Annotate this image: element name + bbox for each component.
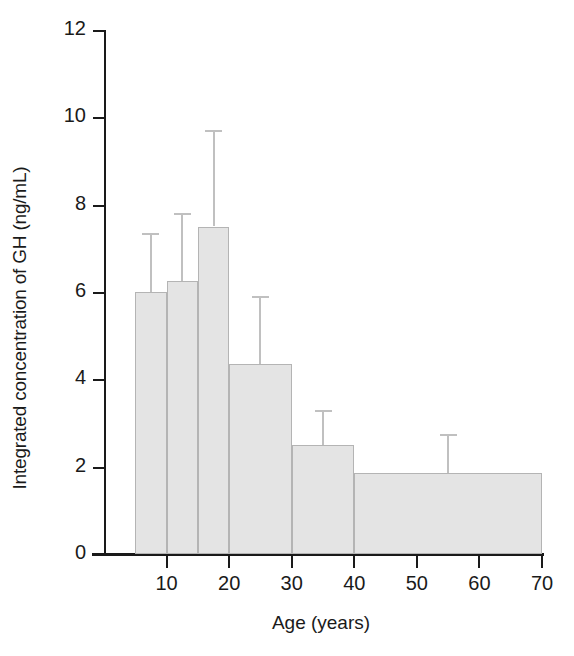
- error-bar-cap: [315, 410, 332, 412]
- x-tick-label: 60: [457, 572, 501, 595]
- y-tick-label: 6: [75, 279, 86, 302]
- x-axis-title: Age (years): [100, 612, 542, 634]
- y-tick-mark: [93, 117, 104, 119]
- x-tick-mark: [416, 556, 418, 568]
- y-tick-label: 0: [75, 541, 86, 564]
- error-bar-cap: [142, 233, 159, 235]
- error-bar-stem: [150, 233, 152, 292]
- x-tick-label: 30: [270, 572, 314, 595]
- bar: [167, 281, 198, 554]
- bar: [354, 473, 542, 554]
- x-tick-mark: [478, 556, 480, 568]
- y-tick-label: 8: [75, 192, 86, 215]
- x-tick-label: 20: [207, 572, 251, 595]
- x-tick-label: 10: [145, 572, 189, 595]
- error-bar-cap: [174, 213, 191, 215]
- error-bar-stem: [213, 130, 215, 226]
- error-bar-cap: [440, 434, 457, 436]
- y-tick-label: 4: [75, 366, 86, 389]
- bar: [135, 292, 166, 554]
- bar: [198, 227, 229, 555]
- x-tick-mark: [291, 556, 293, 568]
- x-tick-mark: [166, 556, 168, 568]
- bar: [229, 364, 292, 554]
- error-bar-stem: [322, 410, 324, 445]
- error-bar-cap: [252, 296, 269, 298]
- y-tick-mark: [93, 292, 104, 294]
- x-tick-label: 70: [520, 572, 564, 595]
- y-tick-mark: [93, 205, 104, 207]
- x-tick-label: 50: [395, 572, 439, 595]
- error-bar-stem: [447, 434, 449, 473]
- y-tick-label: 12: [64, 17, 86, 40]
- y-axis-title: Integrated concentration of GH (ng/mL): [0, 0, 40, 656]
- error-bar-stem: [181, 213, 183, 281]
- x-tick-mark: [353, 556, 355, 568]
- y-tick-mark: [93, 467, 104, 469]
- x-tick-mark: [541, 556, 543, 568]
- y-tick-mark: [93, 554, 104, 556]
- error-bar-stem: [259, 296, 261, 364]
- gh-concentration-bar-chart: Integrated concentration of GH (ng/mL) A…: [0, 0, 574, 656]
- y-tick-label: 2: [75, 454, 86, 477]
- y-tick-mark: [93, 30, 104, 32]
- x-tick-mark: [228, 556, 230, 568]
- x-tick-label: 40: [332, 572, 376, 595]
- error-bar-cap: [205, 130, 222, 132]
- y-tick-label: 10: [64, 104, 86, 127]
- plot-area: [104, 30, 542, 554]
- bar: [292, 445, 355, 554]
- y-tick-mark: [93, 379, 104, 381]
